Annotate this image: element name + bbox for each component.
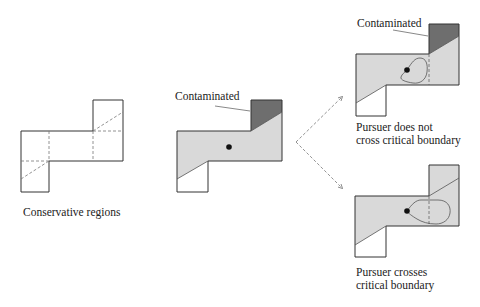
cross-caption-line1: Pursuer crosses	[356, 266, 428, 278]
label-pointer	[215, 106, 250, 111]
pursuer-dot	[404, 208, 410, 214]
pursuer-dot	[226, 144, 232, 150]
no-cross-diagram	[356, 24, 459, 116]
conservative-caption: Conservative regions	[23, 206, 121, 219]
cleared-region	[355, 165, 459, 245]
cross-caption-line2: critical boundary	[356, 279, 434, 292]
contaminated-label: Contaminated	[357, 17, 422, 29]
transition-arrows	[296, 97, 342, 188]
no-cross-caption-line2: cross critical boundary	[356, 134, 461, 147]
contaminated-label: Contaminated	[175, 90, 240, 102]
environment-outline	[21, 100, 123, 192]
conservative-regions-diagram	[21, 100, 123, 192]
cross-diagram	[355, 165, 459, 257]
pursuer-dot	[404, 67, 410, 73]
no-cross-caption-line1: Pursuer does not	[356, 121, 433, 133]
label-pointer	[393, 30, 428, 36]
initial-state-diagram	[177, 100, 282, 192]
